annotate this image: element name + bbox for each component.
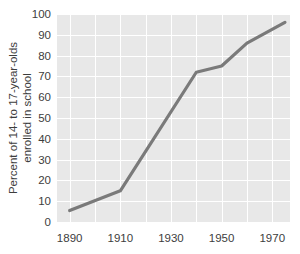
y-tick-label: 40: [38, 133, 51, 145]
y-axis-label-line-1: Percent of 14- to 17-year-olds: [7, 42, 19, 194]
x-tick-label: 1950: [209, 232, 235, 244]
x-tick-label: 1970: [259, 232, 285, 244]
chart-canvas: 0102030405060708090100 18901910193019501…: [0, 0, 300, 254]
y-tick-label: 20: [38, 174, 51, 186]
y-tick-label: 10: [38, 195, 51, 207]
y-tick-label: 70: [38, 70, 51, 82]
x-tick-label: 1930: [158, 232, 184, 244]
y-tick-label: 60: [38, 91, 51, 103]
y-tick-label: 30: [38, 154, 51, 166]
y-tick-label: 100: [32, 8, 51, 20]
y-tick-label: 50: [38, 112, 51, 124]
line-chart: 0102030405060708090100 18901910193019501…: [0, 0, 300, 254]
y-tick-label: 90: [38, 29, 51, 41]
y-axis-label-line-2: enrolled in school: [21, 73, 33, 163]
y-tick-label: 80: [38, 50, 51, 62]
x-tick-label: 1910: [108, 232, 134, 244]
y-tick-label: 0: [45, 216, 51, 228]
x-tick-label: 1890: [57, 232, 83, 244]
